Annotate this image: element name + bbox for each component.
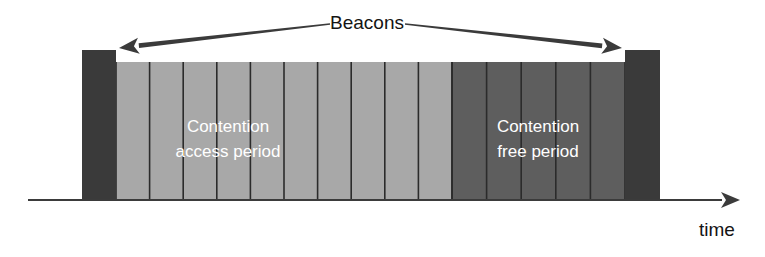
beacons-arrow-right-head	[601, 38, 622, 54]
left-beacon-bar	[82, 50, 116, 200]
time-axis-arrowhead	[721, 192, 740, 208]
diagram-canvas: Contention access period Contention free…	[0, 0, 765, 257]
beacons-arrow-left-head	[119, 38, 140, 54]
superframe-diagram: Contention access period Contention free…	[0, 0, 765, 257]
time-axis-label: time	[699, 219, 735, 240]
contention-free-period-label-line1: Contention	[497, 117, 579, 136]
contention-free-period-label-line2: free period	[497, 142, 578, 161]
beacons-callout-label: Beacons	[330, 12, 404, 33]
right-beacon-bar	[625, 50, 660, 200]
contention-access-period-label-line1: Contention	[187, 117, 269, 136]
beacons-arrow-right-shaft	[405, 23, 602, 48]
contention-access-period-label-line2: access period	[176, 142, 281, 161]
beacons-arrow-left-shaft	[139, 23, 330, 48]
